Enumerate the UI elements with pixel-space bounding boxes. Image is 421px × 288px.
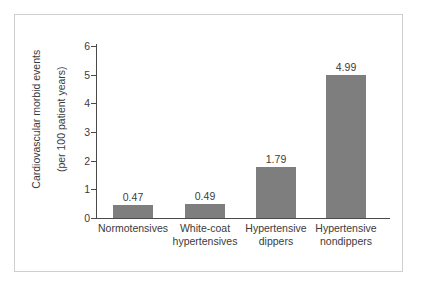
y-tick-label-1: 1	[64, 184, 90, 194]
y-tick-label-6: 6	[64, 41, 90, 51]
y-axis-tick-labels: 6 5 4 3 2 1 0	[62, 0, 90, 288]
x-axis-line	[96, 218, 390, 219]
y-axis-tick-0	[91, 218, 96, 219]
x-label-line: Hypertensive	[303, 222, 389, 235]
bar-normotensives[interactable]	[113, 205, 153, 218]
bar-group-hypertensive-nondippers: 4.99	[311, 46, 381, 218]
plot-area: 0.47 0.49 1.79 4.99	[96, 46, 390, 218]
y-tick-label-4: 4	[64, 98, 90, 108]
x-label-line: nondippers	[303, 235, 389, 248]
figure-container: Cardiovascular morbid events (per 100 pa…	[0, 0, 421, 288]
bar-value-hypertensive-dippers: 1.79	[241, 154, 311, 165]
y-tick-label-5: 5	[64, 70, 90, 80]
bar-value-white-coat-hypertensives: 0.49	[170, 191, 240, 202]
bar-value-hypertensive-nondippers: 4.99	[311, 62, 381, 73]
bar-value-normotensives: 0.47	[98, 192, 168, 203]
bar-group-normotensives: 0.47	[98, 46, 168, 218]
y-tick-label-2: 2	[64, 156, 90, 166]
bar-group-hypertensive-dippers: 1.79	[241, 46, 311, 218]
y-tick-label-0: 0	[64, 213, 90, 223]
y-tick-label-3: 3	[64, 127, 90, 137]
bar-group-white-coat-hypertensives: 0.49	[170, 46, 240, 218]
y-axis-title-line-1: Cardiovascular morbid events	[29, 24, 42, 214]
bar-white-coat-hypertensives[interactable]	[185, 204, 225, 218]
x-axis-label-hypertensive-nondippers: Hypertensive nondippers	[303, 222, 389, 247]
bar-hypertensive-nondippers[interactable]	[326, 75, 366, 218]
bar-hypertensive-dippers[interactable]	[256, 167, 296, 218]
